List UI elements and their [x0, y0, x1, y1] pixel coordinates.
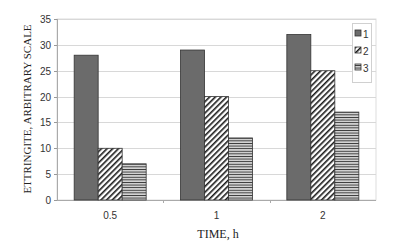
y-tick-label: 20	[40, 92, 52, 103]
y-tick-label: 0	[45, 195, 51, 206]
y-tick-label: 25	[40, 66, 52, 77]
legend: 123	[353, 24, 372, 83]
legend-swatch-3	[355, 64, 361, 70]
legend-label-1: 1	[363, 29, 369, 40]
y-tick-label: 15	[40, 117, 52, 128]
x-axis-title: TIME, h	[197, 227, 238, 241]
y-tick-label: 5	[45, 169, 51, 180]
bar-series-1-2	[287, 35, 311, 200]
bar-series-2-1	[205, 97, 229, 200]
y-axis-title: ETTRINGITE, ARBITRARY SCALE	[21, 24, 33, 193]
legend-swatch-2	[355, 47, 361, 53]
bar-series-3-2	[335, 112, 359, 200]
legend-label-2: 2	[363, 46, 369, 57]
x-tick-label: 0.5	[103, 210, 117, 221]
bar-series-2-0.5	[98, 148, 122, 200]
bar-series-1-0.5	[74, 55, 98, 200]
bar-series-2-2	[311, 71, 335, 200]
y-tick-label: 30	[40, 40, 52, 51]
legend-swatch-1	[355, 30, 361, 36]
legend-label-3: 3	[363, 63, 369, 74]
y-tick-label: 35	[40, 14, 52, 25]
chart: 05101520253035 0.512 ETTRINGITE, ARBITRA…	[0, 0, 396, 248]
x-tick-labels: 0.512	[103, 210, 326, 221]
bar-series-1-1	[181, 50, 205, 200]
y-tick-labels: 05101520253035	[40, 14, 52, 206]
bar-series-3-0.5	[122, 164, 146, 200]
x-tick-label: 1	[214, 210, 220, 221]
x-tick-label: 2	[320, 210, 326, 221]
bars	[74, 35, 359, 200]
bar-series-3-1	[229, 138, 253, 200]
y-tick-label: 10	[40, 143, 52, 154]
